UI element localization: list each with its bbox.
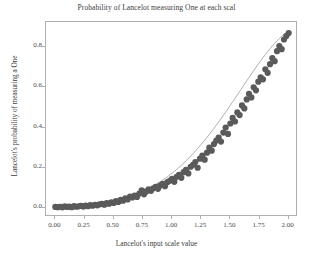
data-point bbox=[279, 46, 285, 52]
scatter-plot-svg bbox=[46, 22, 298, 217]
data-point bbox=[241, 105, 247, 111]
x-tick-label: 2.00 bbox=[268, 221, 308, 229]
x-tick-mark bbox=[171, 216, 172, 219]
data-point bbox=[223, 124, 229, 130]
data-point bbox=[286, 30, 292, 36]
data-point bbox=[218, 139, 224, 145]
y-tick-label: 0.4 bbox=[16, 122, 42, 130]
data-point bbox=[202, 157, 208, 163]
data-point bbox=[265, 70, 271, 76]
y-tick-label: 0.8 bbox=[16, 41, 42, 49]
data-point bbox=[225, 131, 231, 137]
data-points bbox=[52, 30, 292, 210]
y-tick-label: 0.0 bbox=[16, 202, 42, 210]
x-tick-mark bbox=[288, 216, 289, 219]
y-tick-mark bbox=[42, 127, 45, 128]
x-tick-mark bbox=[229, 216, 230, 219]
x-tick-mark bbox=[200, 216, 201, 219]
y-tick-label: 0.2 bbox=[16, 162, 42, 170]
data-point bbox=[185, 170, 191, 176]
x-tick-mark bbox=[142, 216, 143, 219]
chart-figure: Probability of Lancelot measuring One at… bbox=[0, 0, 313, 261]
y-tick-mark bbox=[42, 167, 45, 168]
chart-title: Probability of Lancelot measuring One at… bbox=[0, 3, 313, 12]
y-tick-label: 0.6 bbox=[16, 81, 42, 89]
x-tick-mark bbox=[54, 216, 55, 219]
x-tick-mark bbox=[113, 216, 114, 219]
y-tick-mark bbox=[42, 86, 45, 87]
plot-area bbox=[45, 21, 297, 216]
data-point bbox=[195, 165, 201, 171]
y-tick-mark bbox=[42, 207, 45, 208]
data-point bbox=[237, 112, 243, 118]
x-axis-tick-labels: 0.000.250.500.751.001.251.501.752.00 bbox=[0, 221, 313, 235]
data-point bbox=[260, 76, 266, 82]
x-axis-label: Lancelot's input scale value bbox=[0, 239, 313, 248]
data-point bbox=[253, 87, 259, 93]
data-point bbox=[178, 175, 184, 181]
y-tick-mark bbox=[42, 46, 45, 47]
data-point bbox=[248, 94, 254, 100]
data-point bbox=[209, 148, 215, 154]
x-tick-mark bbox=[84, 216, 85, 219]
data-point bbox=[232, 118, 238, 124]
x-tick-mark bbox=[259, 216, 260, 219]
y-axis-label: Lancelot's probability of measuring a On… bbox=[11, 19, 19, 214]
data-point bbox=[272, 58, 278, 64]
